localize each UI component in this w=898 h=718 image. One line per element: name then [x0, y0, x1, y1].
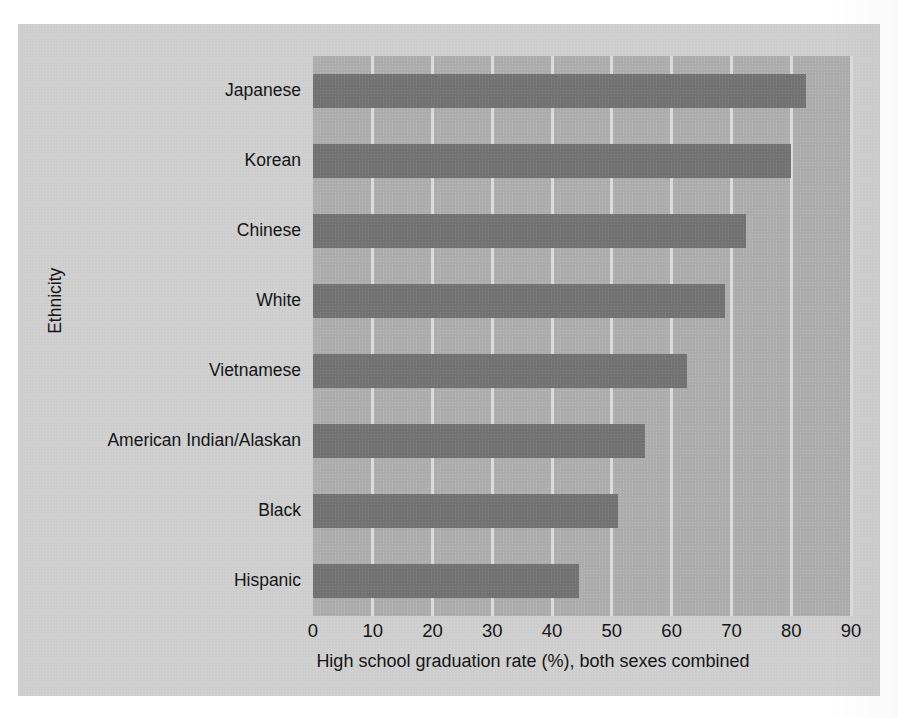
- x-axis-tick-labels: 0102030405060708090: [313, 622, 851, 648]
- gridline: [491, 56, 494, 616]
- x-tick-label: 80: [781, 622, 802, 641]
- bar-chinese: [313, 214, 746, 247]
- bar-japanese: [313, 74, 806, 107]
- gridline: [850, 56, 853, 616]
- bar-row: [313, 494, 851, 527]
- gridline: [371, 56, 374, 616]
- x-tick-label: 0: [308, 622, 318, 641]
- x-tick-label: 60: [661, 622, 682, 641]
- y-axis-tick-labels: JapaneseKoreanChineseWhiteVietnameseAmer…: [18, 56, 301, 616]
- y-tick-label: Vietnamese: [209, 362, 301, 380]
- gridline: [730, 56, 733, 616]
- y-tick-label: Japanese: [225, 82, 301, 100]
- bar-korean: [313, 144, 791, 177]
- bar-row: [313, 144, 851, 177]
- bar-vietnamese: [313, 354, 687, 387]
- bar-row: [313, 354, 851, 387]
- bar-row: [313, 74, 851, 107]
- x-tick-label: 40: [542, 622, 563, 641]
- x-tick-label: 20: [422, 622, 443, 641]
- y-tick-label: Hispanic: [234, 572, 301, 590]
- x-tick-label: 30: [482, 622, 503, 641]
- bar-white: [313, 284, 725, 317]
- chart-figure: Ethnicity JapaneseKoreanChineseWhiteViet…: [18, 24, 880, 696]
- bar-row: [313, 424, 851, 457]
- gridline: [610, 56, 613, 616]
- y-tick-label: American Indian/Alaskan: [107, 432, 301, 450]
- x-tick-label: 50: [602, 622, 623, 641]
- bar-row: [313, 564, 851, 597]
- bar-american-indian-alaskan: [313, 424, 645, 457]
- bar-hispanic: [313, 564, 579, 597]
- gridline: [790, 56, 793, 616]
- x-tick-label: 70: [721, 622, 742, 641]
- y-tick-label: Black: [258, 502, 301, 520]
- y-tick-label: White: [256, 292, 301, 310]
- y-tick-label: Chinese: [237, 222, 301, 240]
- figure-page: Ethnicity JapaneseKoreanChineseWhiteViet…: [0, 0, 898, 718]
- x-axis-title: High school graduation rate (%), both se…: [198, 652, 868, 672]
- plot-area: [313, 56, 851, 616]
- gridline: [551, 56, 554, 616]
- gridline: [670, 56, 673, 616]
- bar-row: [313, 284, 851, 317]
- x-tick-label: 10: [362, 622, 383, 641]
- bar-black: [313, 494, 618, 527]
- gridline: [431, 56, 434, 616]
- x-tick-label: 90: [841, 622, 862, 641]
- y-tick-label: Korean: [245, 152, 301, 170]
- bar-row: [313, 214, 851, 247]
